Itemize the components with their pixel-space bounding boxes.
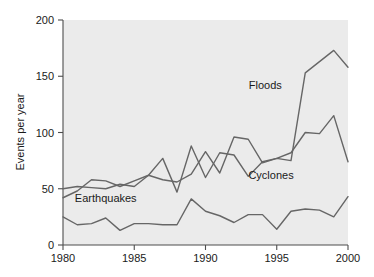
x-tick-label: 1985 (122, 252, 146, 264)
x-tick-label: 1980 (51, 252, 75, 264)
x-tick-label: 2000 (336, 252, 360, 264)
line-chart: 050100150200 19801985199019952000 Floods… (0, 0, 374, 277)
y-tick-label: 0 (48, 239, 54, 251)
series-label-floods: Floods (249, 79, 283, 91)
y-tick-label: 100 (36, 127, 54, 139)
x-tick-label: 1995 (265, 252, 289, 264)
y-tick-label: 150 (36, 70, 54, 82)
x-tick-label: 1990 (193, 252, 217, 264)
series-label-cyclones: Cyclones (248, 169, 294, 181)
y-axis-title: Events per year (14, 93, 26, 170)
y-tick-label: 200 (36, 14, 54, 26)
y-tick-label: 50 (42, 183, 54, 195)
chart-figure: 050100150200 19801985199019952000 Floods… (0, 0, 374, 277)
series-label-earthquakes: Earthquakes (75, 192, 137, 204)
